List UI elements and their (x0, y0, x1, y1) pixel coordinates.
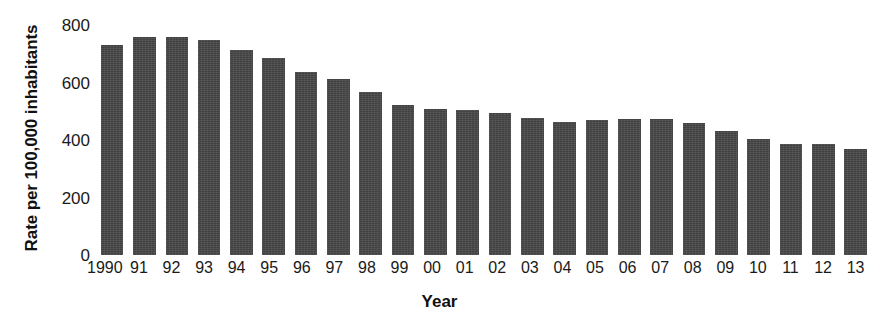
y-axis-tick-label: 400 (40, 132, 90, 149)
x-axis-tick-label: 10 (742, 257, 775, 281)
bar (553, 122, 576, 255)
bar-slot (258, 25, 290, 255)
bar-slot (646, 25, 678, 255)
bar-slot (452, 25, 484, 255)
bar-slot (484, 25, 516, 255)
bar-slot (549, 25, 581, 255)
x-axis-tick-label: 93 (188, 257, 221, 281)
x-axis-tick-label: 12 (807, 257, 840, 281)
bar-slot (290, 25, 322, 255)
x-axis-tick-label: 05 (579, 257, 612, 281)
x-axis-baseline (94, 255, 874, 256)
bar-slot (193, 25, 225, 255)
x-axis-tick-label: 01 (448, 257, 481, 281)
y-axis-tick-label: 0 (40, 247, 90, 264)
x-axis-tick-label: 1990 (87, 257, 123, 281)
x-axis-tick-label: 98 (351, 257, 384, 281)
x-axis-tick-label: 04 (546, 257, 579, 281)
bar-slot (161, 25, 193, 255)
bar-slot (387, 25, 419, 255)
bar (812, 144, 835, 255)
bars-layer (96, 25, 872, 255)
x-axis-tick-label: 07 (644, 257, 677, 281)
y-axis-tick-labels: 8006004002000 (40, 0, 90, 322)
bar (521, 118, 544, 255)
bar (650, 119, 673, 255)
bar (392, 105, 415, 255)
x-axis-tick-label: 11 (774, 257, 807, 281)
x-axis-tick-label: 00 (416, 257, 449, 281)
y-axis-tick-label: 800 (40, 17, 90, 34)
bar-chart: Rate per 100,000 inhabitants 80060040020… (0, 0, 879, 322)
bar (586, 120, 609, 255)
bar-slot (807, 25, 839, 255)
bar (715, 131, 738, 255)
bar (101, 45, 124, 255)
x-axis-tick-label: 94 (220, 257, 253, 281)
x-axis-title: Year (0, 292, 879, 312)
x-axis-tick-label: 06 (611, 257, 644, 281)
bar (230, 50, 253, 255)
y-axis-title: Rate per 100,000 inhabitants (22, 8, 42, 268)
bar-slot (419, 25, 451, 255)
bar-slot (613, 25, 645, 255)
bar (780, 144, 803, 255)
bar (456, 110, 479, 255)
bar-slot (355, 25, 387, 255)
bar-slot (322, 25, 354, 255)
bar (133, 37, 156, 255)
x-axis-tick-labels: 1990919293949596979899000102030405060708… (96, 257, 872, 281)
x-axis-tick-label: 02 (481, 257, 514, 281)
bar-slot (775, 25, 807, 255)
bar-slot (128, 25, 160, 255)
plot-area (96, 25, 872, 255)
x-axis-tick-label: 92 (155, 257, 188, 281)
x-axis-tick-label: 97 (318, 257, 351, 281)
bar-slot (678, 25, 710, 255)
bar (295, 72, 318, 255)
x-axis-tick-label: 08 (676, 257, 709, 281)
bar (359, 92, 382, 255)
bar (489, 113, 512, 255)
bar-slot (96, 25, 128, 255)
bar (844, 149, 867, 255)
bar-slot (840, 25, 872, 255)
x-axis-tick-label: 13 (839, 257, 872, 281)
bar (166, 37, 189, 255)
bar (198, 40, 221, 255)
y-axis-tick-label: 200 (40, 189, 90, 206)
bar (747, 139, 770, 255)
bar (424, 109, 447, 255)
y-axis-tick-label: 600 (40, 74, 90, 91)
bar-slot (743, 25, 775, 255)
x-axis-tick-label: 99 (383, 257, 416, 281)
bar (618, 119, 641, 255)
bar (683, 123, 706, 255)
bar-slot (581, 25, 613, 255)
bar-slot (710, 25, 742, 255)
bar-slot (225, 25, 257, 255)
x-axis-tick-label: 03 (514, 257, 547, 281)
bar (327, 79, 350, 255)
x-axis-tick-label: 91 (123, 257, 156, 281)
x-axis-tick-label: 95 (253, 257, 286, 281)
x-axis-tick-label: 96 (285, 257, 318, 281)
bar (262, 58, 285, 255)
bar-slot (516, 25, 548, 255)
x-axis-tick-label: 09 (709, 257, 742, 281)
